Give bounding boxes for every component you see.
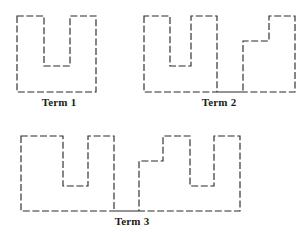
figure-background xyxy=(0,0,307,238)
pattern-sequence-figure xyxy=(0,0,307,238)
term-3-label: Term 3 xyxy=(97,215,167,227)
term-2-label: Term 2 xyxy=(186,96,252,108)
term-1-label: Term 1 xyxy=(26,96,92,108)
